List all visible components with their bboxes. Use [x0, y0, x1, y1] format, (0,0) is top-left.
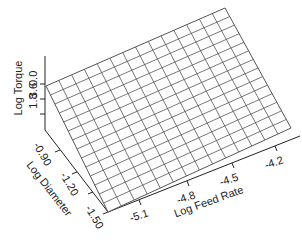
- z-tick-label: 3.6: [27, 83, 39, 98]
- surface-chart: 0.0 1.8 3.6 Log Torque -0.90 -1.20 -1.50…: [0, 0, 302, 244]
- x-tick-label: -4.2: [263, 154, 285, 171]
- surface-mesh: [46, 8, 291, 212]
- z-axis-label: Log Torque: [12, 61, 24, 116]
- x-tick-label: -5.1: [128, 207, 150, 224]
- z-axis-ticks: [40, 84, 45, 114]
- y-tick-label: -1.50: [83, 203, 106, 231]
